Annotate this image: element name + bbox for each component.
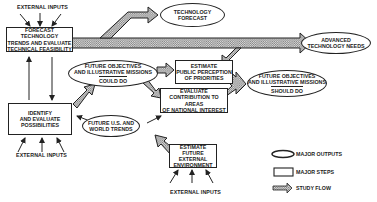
external-input-arrows-left xyxy=(18,138,64,152)
legend-ellipse-icon xyxy=(272,151,294,158)
tech-forecast-line-2: FORECAST xyxy=(178,15,207,21)
national-line-2: CONTRIBUTION TO AREAS xyxy=(161,94,227,106)
adv-needs-line-2: TECHNOLOGY NEEDS xyxy=(308,43,365,49)
coulddo-line-2: AND ILLUSTRATIVE MISSIONS xyxy=(74,69,152,75)
study-flow-arrow-tech-forecast xyxy=(100,7,158,38)
legend-study-flow: STUDY FLOW xyxy=(296,185,331,191)
external-input-arrows-bottom xyxy=(170,170,213,183)
national-line-3: OF NATIONAL INTEREST xyxy=(161,107,227,113)
output-advanced-technology-needs: ADVANCED TECHNOLOGY NEEDS xyxy=(301,32,371,54)
forecast-line-3: TECHNICAL FEASIBILITY xyxy=(7,46,72,52)
output-future-objectives-could-do: FUTURE OBJECTIVES AND ILLUSTRATIVE MISSI… xyxy=(68,60,158,87)
public-line-3: OF PRIORITIES xyxy=(176,75,232,81)
legend-box-icon xyxy=(274,168,293,176)
study-flow-arrow-coulddo-public xyxy=(157,63,174,77)
external-inputs-label-left: EXTERNAL INPUTS xyxy=(16,152,67,158)
env-line-2: FUTURE EXTERNAL xyxy=(170,150,216,162)
step-identify-possibilities: IDENTIFY AND EVALUATE POSSIBILITIES xyxy=(8,103,72,135)
step-estimate-external-environment: ESTIMATE FUTURE EXTERNAL ENVIRONMENT xyxy=(169,144,217,168)
step-estimate-public-perception: ESTIMATE PUBLIC PERCEPTION OF PRIORITIES xyxy=(175,60,233,84)
legend-flow-icon xyxy=(273,183,292,193)
external-inputs-label-bottom: EXTERNAL INPUTS xyxy=(170,189,221,195)
legend-major-outputs: MAJOR OUTPUTS xyxy=(296,151,342,157)
world-national-arrow xyxy=(147,116,161,123)
forecast-line-2: TRENDS AND EVALUATE xyxy=(7,40,72,46)
shoulddo-line-2: AND ILLUSTRATIVE MISSIONS xyxy=(248,79,326,85)
shoulddo-sub: SHOULD DO xyxy=(271,86,303,94)
step-evaluate-national-interest: EVALUATE CONTRIBUTION TO AREAS OF NATION… xyxy=(160,88,228,113)
forecast-identify-arrows xyxy=(29,57,52,100)
output-future-objectives-should-do: FUTURE OBJECTIVES AND ILLUSTRATIVE MISSI… xyxy=(247,70,327,97)
forecast-line-1: FORECAST TECHNOLOGY xyxy=(7,27,72,39)
identify-line-3: POSSIBILITIES xyxy=(20,122,61,128)
output-future-world-trends: FUTURE U.S. AND WORLD TRENDS xyxy=(82,115,140,137)
study-flow-arrow-identify-coulddo xyxy=(73,84,95,108)
external-inputs-label-top: EXTERNAL INPUTS xyxy=(17,4,68,10)
output-technology-forecast: TECHNOLOGY FORECAST xyxy=(160,3,225,27)
external-input-arrows-top xyxy=(20,13,61,26)
world-line-2: WORLD TRENDS xyxy=(89,126,132,132)
env-line-3: ENVIRONMENT xyxy=(170,162,216,168)
legend-major-steps: MAJOR STEPS xyxy=(296,169,334,175)
coulddo-sub: COULD DO xyxy=(99,76,127,84)
step-forecast-technology: FORECAST TECHNOLOGY TRENDS AND EVALUATE … xyxy=(6,27,73,52)
